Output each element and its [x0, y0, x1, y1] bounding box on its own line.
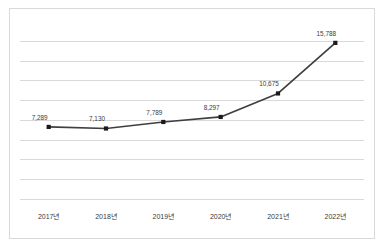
- data-value-label: 10,675: [259, 80, 279, 87]
- data-point-marker: [47, 125, 51, 129]
- data-point-marker: [276, 91, 280, 95]
- line-chart: 7,2897,1307,7898,29710,67515,788 2017년20…: [10, 9, 374, 238]
- data-value-label: 15,788: [317, 30, 337, 37]
- category-axis-label: 2017년: [38, 212, 60, 220]
- data-value-labels: 7,2897,1307,7898,29710,67515,788: [32, 30, 337, 123]
- category-axis-label: 2021년: [267, 212, 289, 220]
- category-axis-label: 2020년: [210, 212, 232, 220]
- plot-area: 7,2897,1307,7898,29710,67515,788 2017년20…: [10, 9, 374, 238]
- category-axis-label: 2019년: [153, 212, 175, 220]
- data-value-label: 7,130: [89, 115, 105, 122]
- data-point-marker: [161, 120, 165, 124]
- data-point-marker: [219, 115, 223, 119]
- data-point-marker: [104, 126, 108, 130]
- data-point-marker: [333, 41, 337, 45]
- chart-frame: 7,2897,1307,7898,29710,67515,788 2017년20…: [9, 8, 375, 239]
- data-value-label: 7,789: [146, 109, 162, 116]
- data-value-label: 8,297: [204, 104, 220, 111]
- data-value-label: 7,289: [32, 114, 48, 121]
- category-axis-label: 2022년: [325, 212, 347, 220]
- category-axis-labels: 2017년2018년2019년2020년2021년2022년: [38, 212, 346, 220]
- category-axis-label: 2018년: [95, 212, 117, 220]
